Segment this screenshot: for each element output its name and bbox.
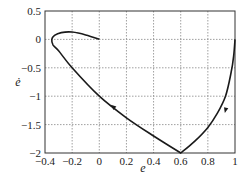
x-tick-label: 0.6 [174, 155, 188, 167]
direction-arrows [111, 105, 229, 113]
x-tick-label: 0.4 [147, 155, 161, 167]
y-tick-label: 0.5 [27, 5, 41, 17]
x-axis-label: e [140, 161, 146, 175]
y-tick-label: −2 [29, 147, 41, 159]
phase-plot: −0.4−0.200.20.40.60.81 0.50−0.5−1−1.5−2 … [0, 0, 242, 176]
x-axis-ticks: −0.4−0.200.20.40.60.81 [35, 155, 238, 167]
y-axis-label: ė [15, 75, 21, 89]
arrow-head-icon [224, 107, 228, 113]
x-tick-label: −0.2 [62, 155, 82, 167]
y-tick-label: −1.5 [21, 119, 41, 131]
x-tick-label: 0 [97, 155, 103, 167]
x-tick-label: 0.8 [201, 155, 215, 167]
y-tick-label: −1 [29, 90, 41, 102]
y-tick-label: −0.5 [21, 62, 41, 74]
x-tick-label: 1 [232, 155, 238, 167]
y-tick-label: 0 [36, 33, 42, 45]
x-tick-label: 0.2 [120, 155, 134, 167]
y-axis-ticks: 0.50−0.5−1−1.5−2 [21, 5, 41, 159]
